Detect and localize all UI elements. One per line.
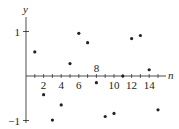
x-tick-label: 8 (94, 62, 100, 74)
data-point (130, 37, 133, 40)
scatter-chart: 24681012141−1yn (0, 0, 179, 129)
data-point (148, 68, 151, 71)
axis-labels: 24681012141−1yn (8, 3, 174, 127)
x-tick-label: 10 (109, 79, 121, 91)
data-point (86, 41, 89, 44)
x-tick-label: 4 (58, 79, 64, 91)
data-point (139, 34, 142, 37)
data-point (51, 118, 54, 121)
data-point (60, 103, 63, 106)
data-point (156, 108, 159, 111)
data-point (33, 50, 36, 53)
data-point (121, 74, 124, 77)
y-axis-label: y (22, 3, 28, 15)
data-point (104, 115, 107, 118)
x-tick-label: 2 (41, 79, 47, 91)
data-point (77, 32, 80, 35)
data-point (95, 81, 98, 84)
x-tick-label: 12 (126, 79, 137, 91)
x-tick-label: 14 (144, 79, 156, 91)
data-point (112, 112, 115, 115)
y-tick-label: −1 (8, 115, 20, 127)
x-tick-label: 6 (76, 79, 82, 91)
x-axis-label: n (168, 69, 174, 81)
data-point (68, 62, 71, 65)
y-tick-label: 1 (15, 26, 21, 38)
data-point (42, 93, 45, 96)
